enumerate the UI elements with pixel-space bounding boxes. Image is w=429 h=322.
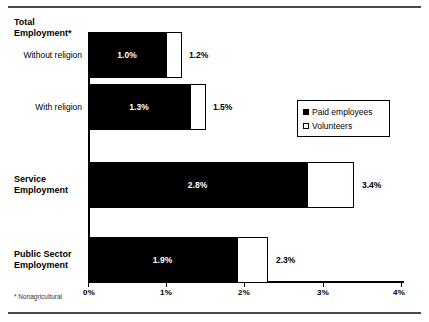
bar-segment-volunteers-service-employment bbox=[307, 162, 354, 208]
group-label-total-employment: Total Employment* bbox=[14, 17, 72, 39]
chart-legend: Paid employees Volunteers bbox=[297, 100, 390, 137]
top-divider-rule bbox=[8, 6, 421, 8]
legend-item-volunteers: Volunteers bbox=[303, 120, 352, 132]
footnote-nonagricultural: * Nonagricultural bbox=[14, 293, 62, 300]
x-axis-label-0: 0% bbox=[83, 288, 95, 297]
bar-value-paid-public-sector: 1.9% bbox=[88, 237, 237, 283]
group-label-service-employment: Service Employment bbox=[14, 174, 68, 196]
x-axis-tick-2 bbox=[244, 283, 245, 287]
x-axis-tick-0 bbox=[88, 283, 89, 287]
legend-swatch-filled-icon bbox=[303, 109, 309, 115]
bar-segment-volunteers-without-religion bbox=[166, 32, 182, 78]
x-axis-label-3: 3% bbox=[317, 288, 329, 297]
bottom-divider-rule bbox=[8, 312, 421, 314]
legend-label-paid-employees: Paid employees bbox=[312, 107, 372, 117]
x-axis-label-1: 1% bbox=[160, 288, 172, 297]
legend-item-paid-employees: Paid employees bbox=[303, 106, 372, 118]
bar-value-total-public-sector: 2.3% bbox=[276, 237, 295, 283]
category-label-with-religion: With religion bbox=[35, 102, 82, 113]
x-axis-label-2: 2% bbox=[238, 288, 250, 297]
bar-value-total-service-employment: 3.4% bbox=[362, 162, 381, 208]
x-axis-tick-3 bbox=[323, 283, 324, 287]
legend-label-volunteers: Volunteers bbox=[312, 121, 352, 131]
bar-value-paid-with-religion: 1.3% bbox=[88, 84, 190, 130]
bar-value-paid-without-religion: 1.0% bbox=[88, 32, 166, 78]
x-axis-tick-4 bbox=[401, 283, 402, 287]
x-axis-label-4: 4% bbox=[393, 288, 405, 297]
bar-value-paid-service-employment: 2.8% bbox=[88, 162, 307, 208]
chart-figure: Total Employment* Without religion With … bbox=[0, 0, 429, 322]
plot-area: 0% 1% 2% 3% 4% 1.0% 1.2% 1.3% 1.5% 2.8% … bbox=[88, 32, 404, 283]
bar-value-total-without-religion: 1.2% bbox=[189, 32, 208, 78]
category-label-without-religion: Without religion bbox=[23, 50, 82, 61]
bar-value-total-with-religion: 1.5% bbox=[213, 84, 232, 130]
x-axis-tick-1 bbox=[166, 283, 167, 287]
legend-swatch-open-icon bbox=[303, 123, 309, 129]
bar-segment-volunteers-with-religion bbox=[190, 84, 206, 130]
bar-segment-volunteers-public-sector bbox=[237, 237, 268, 283]
group-label-public-sector-employment: Public Sector Employment bbox=[14, 249, 72, 271]
